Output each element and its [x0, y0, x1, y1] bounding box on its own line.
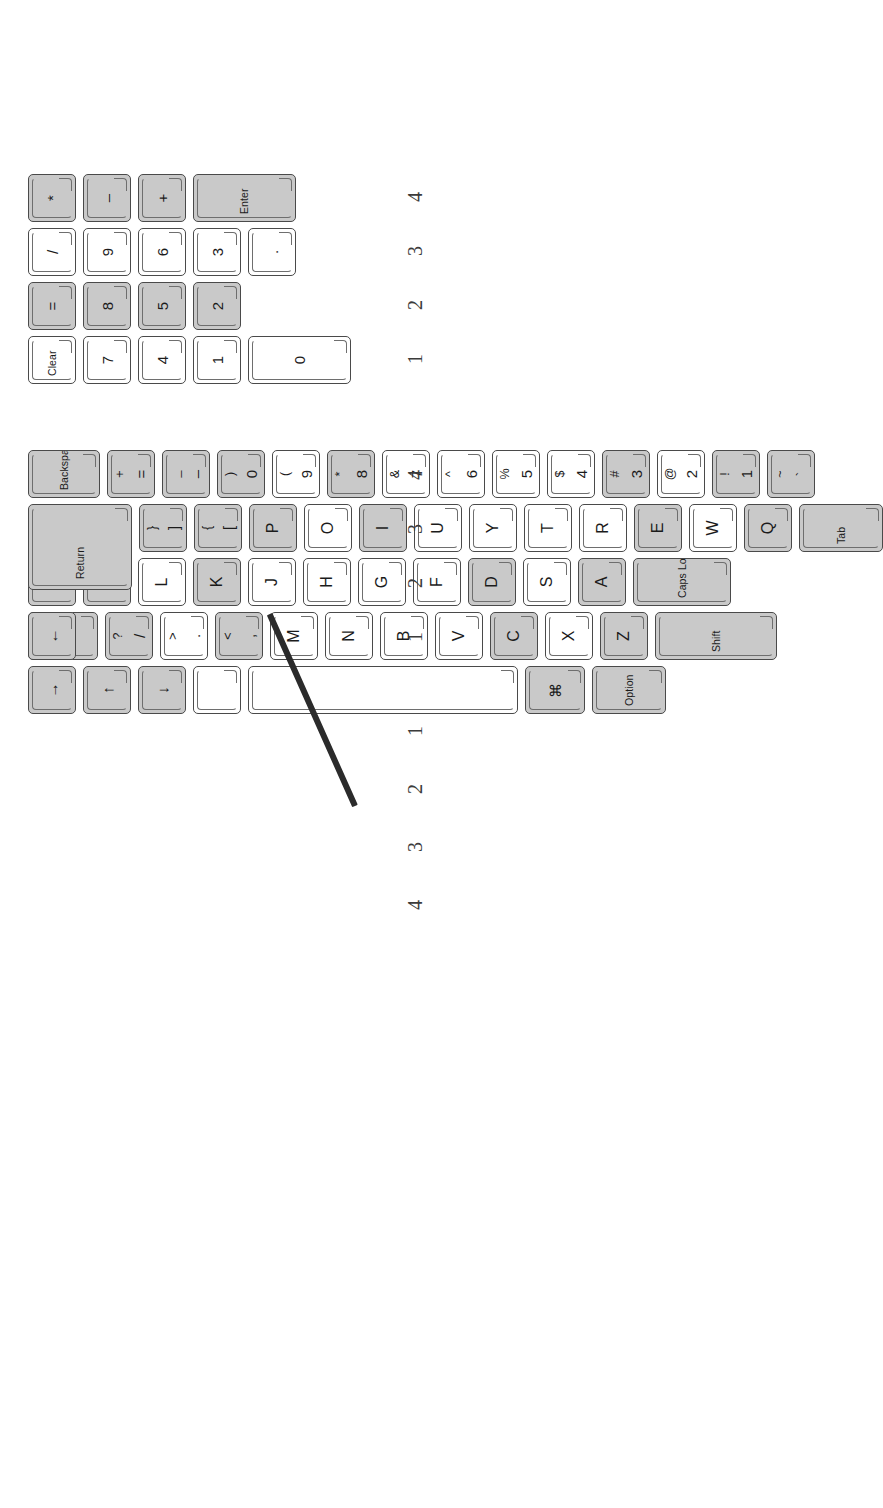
arrow-down-key[interactable]: ↓: [138, 666, 186, 714]
key-l[interactable]: L: [138, 558, 186, 606]
keypad-9[interactable]: 9: [83, 228, 131, 276]
key-5[interactable]: %5: [492, 450, 540, 498]
key-period[interactable]: >.: [160, 612, 208, 660]
key-3[interactable]: #3: [602, 450, 650, 498]
key-d[interactable]: D: [468, 558, 516, 606]
key-h[interactable]: H: [303, 558, 351, 606]
key-6[interactable]: ^6: [437, 450, 485, 498]
key-o[interactable]: O: [304, 504, 352, 552]
keypad-4[interactable]: 4: [138, 336, 186, 384]
key-t[interactable]: T: [524, 504, 572, 552]
keypad-clear[interactable]: Clear: [28, 336, 76, 384]
key-v[interactable]: V: [435, 612, 483, 660]
arrow-left-key[interactable]: ←: [28, 612, 76, 660]
key-legend: ↑: [84, 667, 130, 713]
key-legend: 5: [139, 283, 185, 329]
key-legend: I: [360, 505, 406, 551]
key-9[interactable]: (9: [272, 450, 320, 498]
main-row-label-4-7: 4: [404, 464, 427, 486]
key-g[interactable]: G: [358, 558, 406, 606]
key-legend-base: [: [221, 505, 236, 551]
keypad-minus[interactable]: –: [83, 174, 131, 222]
key-legend-shifted: @: [663, 451, 677, 497]
key-legend: Y: [470, 505, 516, 551]
key-legend: Tab: [800, 505, 882, 551]
key-equals[interactable]: +=: [107, 450, 155, 498]
key-option[interactable]: Option: [592, 666, 666, 714]
key-shift-left[interactable]: Shift: [655, 612, 777, 660]
arrow-up-key[interactable]: ↑: [83, 666, 131, 714]
key-tab[interactable]: Tab: [799, 504, 883, 552]
keypad-3[interactable]: 3: [193, 228, 241, 276]
key-8[interactable]: *8: [327, 450, 375, 498]
key-legend-base: ]: [166, 505, 181, 551]
keypad-1[interactable]: 1: [193, 336, 241, 384]
key-n[interactable]: N: [325, 612, 373, 660]
key-legend-shifted: *: [333, 451, 347, 497]
keypad-slash[interactable]: /: [28, 228, 76, 276]
keypad-plus[interactable]: +: [138, 174, 186, 222]
key-4[interactable]: $4: [547, 450, 595, 498]
key-tilde[interactable]: ~`: [767, 450, 815, 498]
key-a[interactable]: A: [578, 558, 626, 606]
keypad-7[interactable]: 7: [83, 336, 131, 384]
key-w[interactable]: W: [689, 504, 737, 552]
key-z[interactable]: Z: [600, 612, 648, 660]
key-bracket-right[interactable]: }]: [139, 504, 187, 552]
key-legend: D: [469, 559, 515, 605]
key-backspace[interactable]: Backspace: [28, 450, 100, 498]
key-legend-base: =: [134, 451, 149, 497]
key-e[interactable]: E: [634, 504, 682, 552]
keypad-row-label-3-2: 3: [404, 240, 427, 262]
key-command[interactable]: ⌘: [525, 666, 585, 714]
keypad-enter[interactable]: Enter: [193, 174, 296, 222]
blank-key[interactable]: [193, 666, 241, 714]
key-legend: Clear: [29, 337, 75, 383]
key-minus[interactable]: _–: [162, 450, 210, 498]
keypad-period[interactable]: .: [248, 228, 296, 276]
keypad-row-label-2-1: 2: [404, 294, 427, 316]
main-row-label-2-5: 2: [404, 572, 427, 594]
key-caps-lock[interactable]: Caps Lock: [633, 558, 731, 606]
key-legend-base: 6: [464, 451, 479, 497]
key-slash[interactable]: ?/: [105, 612, 153, 660]
key-legend: G: [359, 559, 405, 605]
key-y[interactable]: Y: [469, 504, 517, 552]
key-x[interactable]: X: [545, 612, 593, 660]
key-k[interactable]: K: [193, 558, 241, 606]
key-p[interactable]: P: [249, 504, 297, 552]
key-return[interactable]: Return: [28, 504, 132, 590]
key-legend: L: [139, 559, 185, 605]
arrow-right-key[interactable]: →: [28, 666, 76, 714]
key-legend-shifted: {: [200, 505, 214, 551]
key-r[interactable]: R: [579, 504, 627, 552]
key-legend-shifted: ^: [443, 451, 457, 497]
key-2[interactable]: @2: [657, 450, 705, 498]
key-s[interactable]: S: [523, 558, 571, 606]
keypad-asterisk[interactable]: *: [28, 174, 76, 222]
key-legend: Return: [29, 505, 131, 589]
key-1[interactable]: !1: [712, 450, 760, 498]
key-space[interactable]: [248, 666, 518, 714]
keypad-5[interactable]: 5: [138, 282, 186, 330]
key-i[interactable]: I: [359, 504, 407, 552]
key-legend: E: [635, 505, 681, 551]
key-j[interactable]: J: [248, 558, 296, 606]
key-0[interactable]: )0: [217, 450, 265, 498]
key-legend-shifted: !: [718, 451, 732, 497]
key-legend: X: [546, 613, 592, 659]
key-bracket-left[interactable]: {[: [194, 504, 242, 552]
keypad-0[interactable]: 0: [248, 336, 351, 384]
key-comma[interactable]: <,: [215, 612, 263, 660]
key-legend: Caps Lock: [634, 559, 730, 605]
keypad-6[interactable]: 6: [138, 228, 186, 276]
key-legend: ←: [29, 613, 75, 659]
keypad-equals[interactable]: =: [28, 282, 76, 330]
key-q[interactable]: Q: [744, 504, 792, 552]
keypad-8[interactable]: 8: [83, 282, 131, 330]
keypad-2[interactable]: 2: [193, 282, 241, 330]
key-legend-base: .: [187, 613, 202, 659]
key-c[interactable]: C: [490, 612, 538, 660]
key-legend-base: 1: [739, 451, 754, 497]
